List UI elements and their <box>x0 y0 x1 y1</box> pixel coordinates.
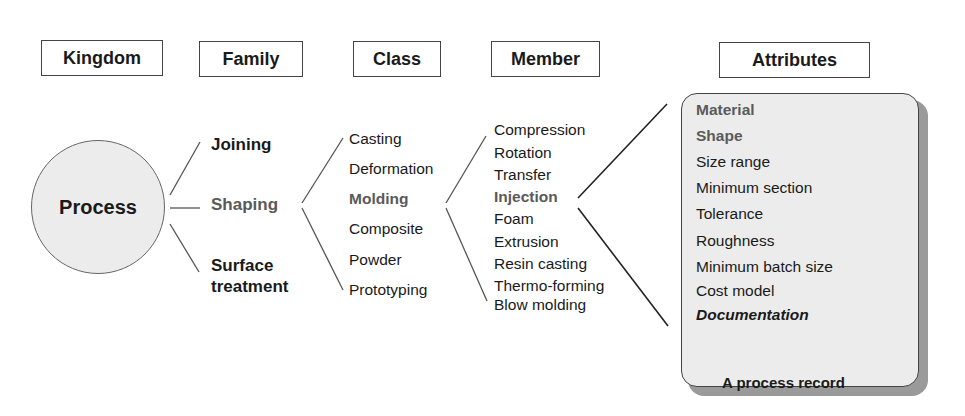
class-powder: Powder <box>349 251 402 269</box>
member-compression: Compression <box>494 121 585 139</box>
kingdom-node-process: Process <box>31 140 165 274</box>
attribute-minimum-batch-size: Minimum batch size <box>696 258 833 276</box>
member-injection: Injection <box>494 188 558 206</box>
class-prototyping: Prototyping <box>349 281 427 299</box>
member-extrusion: Extrusion <box>494 233 559 251</box>
attribute-cost-model: Cost model <box>696 282 774 300</box>
family-surface-treatment: Surface treatment <box>211 255 288 297</box>
attribute-shape: Shape <box>696 127 743 145</box>
class-composite: Composite <box>349 220 423 238</box>
header-class: Class <box>353 41 441 77</box>
attribute-minimum-section: Minimum section <box>696 179 812 197</box>
class-deformation: Deformation <box>349 160 433 178</box>
attribute-material: Material <box>696 101 755 119</box>
caption-process-record: A process record <box>722 374 845 391</box>
attribute-tolerance: Tolerance <box>696 205 763 223</box>
attribute-size-range: Size range <box>696 153 770 171</box>
class-casting: Casting <box>349 130 402 148</box>
header-member: Member <box>491 41 600 77</box>
header-family: Family <box>199 41 303 77</box>
header-kingdom: Kingdom <box>41 40 163 76</box>
class-molding: Molding <box>349 190 408 208</box>
member-blow-molding: Blow molding <box>494 296 586 314</box>
member-transfer: Transfer <box>494 166 551 184</box>
header-attributes: Attributes <box>719 42 870 78</box>
family-shaping: Shaping <box>211 195 278 215</box>
family-joining: Joining <box>211 135 271 155</box>
member-rotation: Rotation <box>494 144 552 162</box>
attribute-documentation: Documentation <box>696 306 809 324</box>
attribute-roughness: Roughness <box>696 232 774 250</box>
member-thermo-forming: Thermo-forming <box>494 277 604 295</box>
member-resin-casting: Resin casting <box>494 255 587 273</box>
member-foam: Foam <box>494 210 534 228</box>
